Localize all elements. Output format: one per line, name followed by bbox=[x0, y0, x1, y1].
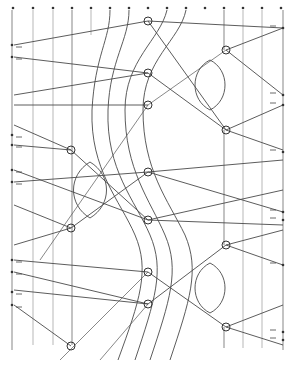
lace-diagram bbox=[0, 0, 294, 368]
crossing-lens bbox=[195, 60, 225, 110]
thread-line bbox=[14, 125, 71, 150]
pin-hole bbox=[12, 7, 15, 10]
pin-hole bbox=[282, 151, 285, 154]
thread-line bbox=[148, 172, 283, 212]
thread-line bbox=[14, 260, 148, 272]
thread-line bbox=[14, 272, 148, 304]
pin-hole bbox=[261, 7, 264, 10]
pin-hole bbox=[11, 304, 14, 307]
pin-hole bbox=[282, 339, 285, 342]
pin-hole bbox=[147, 7, 150, 10]
thread-line bbox=[14, 170, 148, 220]
pin-hole bbox=[185, 7, 188, 10]
pin-hole bbox=[242, 7, 245, 10]
pin-hole bbox=[11, 181, 14, 184]
circle-group bbox=[67, 17, 230, 350]
thread-line bbox=[148, 160, 283, 172]
thread-line bbox=[148, 21, 226, 130]
crossing-lens bbox=[74, 162, 107, 218]
thread-line bbox=[148, 73, 226, 130]
pin-hole bbox=[204, 7, 207, 10]
thread-line bbox=[14, 57, 148, 73]
thread-line bbox=[148, 272, 226, 327]
pin-hole bbox=[11, 56, 14, 59]
thread-line bbox=[60, 272, 148, 360]
pin-hole bbox=[71, 7, 74, 10]
thread-line bbox=[14, 305, 71, 346]
pin-hole bbox=[90, 7, 93, 10]
pin-hole bbox=[11, 291, 14, 294]
thread-line bbox=[226, 28, 283, 50]
thread-line bbox=[40, 105, 148, 260]
pin-hole bbox=[282, 264, 285, 267]
thread-line bbox=[71, 172, 148, 228]
pin-hole bbox=[282, 331, 285, 334]
thread-line bbox=[14, 145, 71, 150]
thread-line bbox=[226, 305, 283, 327]
pin-hole bbox=[11, 144, 14, 147]
thread-line bbox=[148, 190, 283, 220]
wave-line bbox=[92, 10, 142, 360]
pin-hole bbox=[11, 259, 14, 262]
pin-hole bbox=[128, 7, 131, 10]
pin-hole bbox=[166, 7, 169, 10]
pin-hole bbox=[32, 7, 35, 10]
thread-line bbox=[14, 172, 148, 182]
thread-line bbox=[14, 73, 148, 95]
pin-hole bbox=[109, 7, 112, 10]
pin-hole bbox=[282, 27, 285, 30]
pin-hole bbox=[11, 44, 14, 47]
pin-hole bbox=[282, 219, 285, 222]
pin-hole bbox=[223, 7, 226, 10]
thread-line bbox=[226, 105, 283, 130]
pin-hole bbox=[282, 104, 285, 107]
thread-line bbox=[14, 205, 71, 228]
thread-line bbox=[148, 50, 226, 105]
thread-line bbox=[148, 245, 226, 304]
diagram-svg bbox=[0, 0, 294, 368]
pin-hole bbox=[11, 271, 14, 274]
thread-line bbox=[226, 245, 283, 265]
pin-hole bbox=[282, 211, 285, 214]
pin-hole bbox=[280, 7, 283, 10]
thread-line bbox=[226, 50, 283, 95]
crossing-lens bbox=[195, 263, 225, 313]
pin-hole bbox=[11, 134, 14, 137]
thread-line bbox=[14, 228, 71, 245]
thread-line bbox=[226, 130, 283, 150]
pin-hole bbox=[11, 169, 14, 172]
thread-line bbox=[148, 220, 283, 225]
thread-line bbox=[226, 230, 283, 245]
pin-hole bbox=[282, 94, 285, 97]
pin-hole bbox=[52, 7, 55, 10]
